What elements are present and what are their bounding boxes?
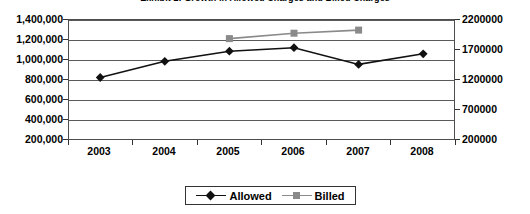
data-point-billed-2005 [226,35,233,42]
y-axis-left-tick: 1,200,000 [0,33,63,45]
data-point-billed-2007 [355,27,362,34]
x-axis-tick: 2008 [410,145,433,157]
data-point-allowed-2004 [160,57,169,66]
x-axis-tick-mark [390,140,391,145]
y-axis-left-tick-mark [63,119,68,120]
y-axis-left-tick: 1,000,000 [0,53,63,65]
chart-legend: Allowed Billed [185,186,356,205]
y-axis-right-tick: 1200000 [462,73,503,85]
y-axis-right-tick-mark [455,49,460,50]
y-axis-left-tick-mark [63,19,68,20]
x-axis-tick-mark [455,140,456,145]
series-line-allowed [100,48,423,78]
y-axis-right-tick-mark [455,79,460,80]
x-axis-tick-mark [68,140,69,145]
y-axis-right-tick: 2200000 [462,13,503,25]
legend-label: Billed [313,190,345,202]
y-axis-left-tick-mark [63,39,68,40]
x-axis-tick: 2006 [281,145,304,157]
diamond-marker-icon [196,191,226,201]
x-axis-tick: 2004 [152,145,175,157]
legend-entry-allowed: Allowed [196,190,271,202]
legend-label: Allowed [227,190,271,202]
data-point-allowed-2005 [225,47,234,56]
data-point-billed-2006 [291,30,298,37]
y-axis-right-tick-mark [455,19,460,20]
data-point-allowed-2006 [290,43,299,52]
data-point-allowed-2008 [419,49,428,58]
chart-title: Exhibit 2: Growth in Allowed Charges and… [0,0,530,3]
square-marker-icon [282,191,312,201]
y-axis-left-tick: 1,400,000 [0,13,63,25]
y-axis-left-tick: 800,000 [0,73,63,85]
y-axis-right-tick-mark [455,109,460,110]
plot-area [68,19,455,140]
series-layer [69,20,456,141]
y-axis-left-tick: 600,000 [0,93,63,105]
x-axis-tick-mark [261,140,262,145]
data-point-allowed-2007 [354,60,363,69]
x-axis-tick-mark [197,140,198,145]
data-point-allowed-2003 [96,73,105,82]
y-axis-left-tick-mark [63,99,68,100]
chart-figure: Exhibit 2: Growth in Allowed Charges and… [0,0,530,214]
y-axis-left-tick: 400,000 [0,113,63,125]
x-axis-tick: 2005 [216,145,239,157]
x-axis-tick: 2003 [87,145,110,157]
y-axis-right-tick: 700000 [462,103,497,115]
x-axis-tick: 2007 [346,145,369,157]
legend-entry-billed: Billed [282,190,345,202]
y-axis-right-tick: 200000 [462,133,497,145]
x-axis-tick-mark [326,140,327,145]
y-axis-right-tick: 1700000 [462,43,503,55]
y-axis-left-tick-mark [63,59,68,60]
x-axis-tick-mark [132,140,133,145]
y-axis-left-tick: 200,000 [0,133,63,145]
y-axis-left-tick-mark [63,79,68,80]
